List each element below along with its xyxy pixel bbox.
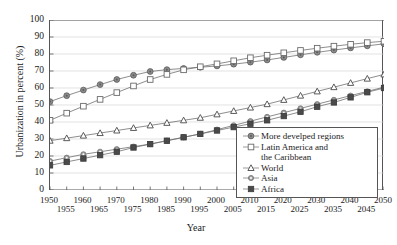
x-tick-label: 1965 [82, 205, 116, 214]
legend-item-4[interactable]: Africa [241, 184, 375, 195]
x-tick-label: 2005 [216, 205, 250, 214]
x-tick-label: 1975 [116, 205, 150, 214]
legend-marker-icon [241, 184, 261, 195]
legend-label-continuation: the Caribbean [241, 152, 375, 163]
legend-item-1[interactable]: Latin America and [241, 142, 375, 153]
legend-marker-icon [241, 173, 261, 184]
x-tick-label: 1995 [182, 205, 216, 214]
x-tick-label: 2025 [283, 205, 317, 214]
legend-marker-icon [241, 163, 261, 174]
legend-label: Asia [261, 173, 375, 184]
legend-item-3[interactable]: Asia [241, 173, 375, 184]
x-tick-label: 1985 [149, 205, 183, 214]
legend-label: Africa [261, 184, 375, 195]
x-tick-label: 2035 [316, 205, 350, 214]
legend-label: More develped regions [261, 131, 375, 142]
legend-label: Latin America and [261, 142, 375, 153]
x-tick-label: 1955 [49, 205, 83, 214]
legend-marker-icon [241, 131, 261, 142]
legend-item-0[interactable]: More develped regions [241, 131, 375, 142]
x-axis-title: Year [0, 222, 392, 233]
legend-marker-icon [241, 142, 261, 153]
legend-label: World [261, 163, 375, 174]
legend-item-2[interactable]: World [241, 163, 375, 174]
chart-legend: More develped regionsLatin America andth… [236, 127, 378, 198]
x-tick-label: 2015 [249, 205, 283, 214]
x-tick-label: 2045 [349, 205, 383, 214]
